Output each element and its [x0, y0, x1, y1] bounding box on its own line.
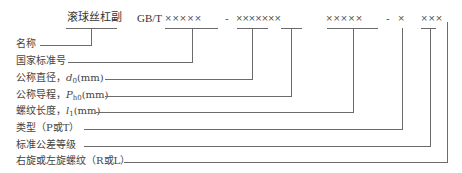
subscript-h0: h0 — [73, 94, 82, 102]
unit-mm: (mm) — [77, 72, 104, 83]
label-nominal-diameter: 公称直径，d0(mm) — [16, 72, 104, 87]
label-length-prefix: 螺纹长度， — [16, 105, 66, 116]
leader-v-type — [402, 28, 403, 129]
label-diameter-prefix: 公称直径， — [16, 72, 66, 83]
symbol-p: P — [66, 89, 73, 100]
label-name: 名称 — [16, 38, 36, 50]
leader-h-standard — [68, 62, 193, 63]
dash-1: - — [225, 12, 230, 24]
code-group-5: ××× — [421, 12, 443, 24]
leader-v-name — [91, 28, 92, 45]
label-type: 类型（P或T） — [16, 122, 79, 134]
leader-h-tolerance — [84, 146, 431, 147]
leader-v-lead — [291, 28, 292, 96]
product-name: 滚球丝杠副 — [67, 12, 122, 24]
label-thread-length: 螺纹长度，l1(mm) — [16, 105, 100, 120]
leader-h-length — [96, 112, 354, 113]
leader-h-diameter — [105, 79, 253, 80]
leader-v-hand — [447, 22, 448, 162]
label-nominal-lead: 公称导程，Ph0(mm) — [16, 89, 108, 104]
leader-v-tolerance — [430, 28, 431, 146]
leader-v-length — [353, 28, 354, 112]
code-group-2: ××××××× — [236, 12, 281, 24]
leader-h-hand — [124, 162, 448, 163]
unit-mm: (mm) — [74, 105, 101, 116]
underline-group-5 — [421, 28, 436, 29]
standard-prefix: GB/T — [137, 12, 162, 24]
dash-2: - — [386, 12, 391, 24]
leader-h-lead — [105, 96, 292, 97]
unit-mm: (mm) — [82, 89, 109, 100]
leader-v-diameter — [252, 28, 253, 79]
leader-h-name — [40, 45, 92, 46]
label-standard-number: 国家标准号 — [16, 55, 66, 67]
leader-h-type — [84, 129, 403, 130]
label-lead-prefix: 公称导程， — [16, 89, 66, 100]
code-group-1: ××××× — [165, 12, 202, 24]
label-tolerance-grade: 标准公差等级 — [16, 139, 76, 151]
code-group-3: ××××× — [326, 12, 363, 24]
label-thread-hand: 右旋或左旋螺纹（R或L） — [16, 155, 130, 167]
leader-v-standard — [192, 28, 193, 62]
code-group-4: × — [398, 12, 405, 24]
